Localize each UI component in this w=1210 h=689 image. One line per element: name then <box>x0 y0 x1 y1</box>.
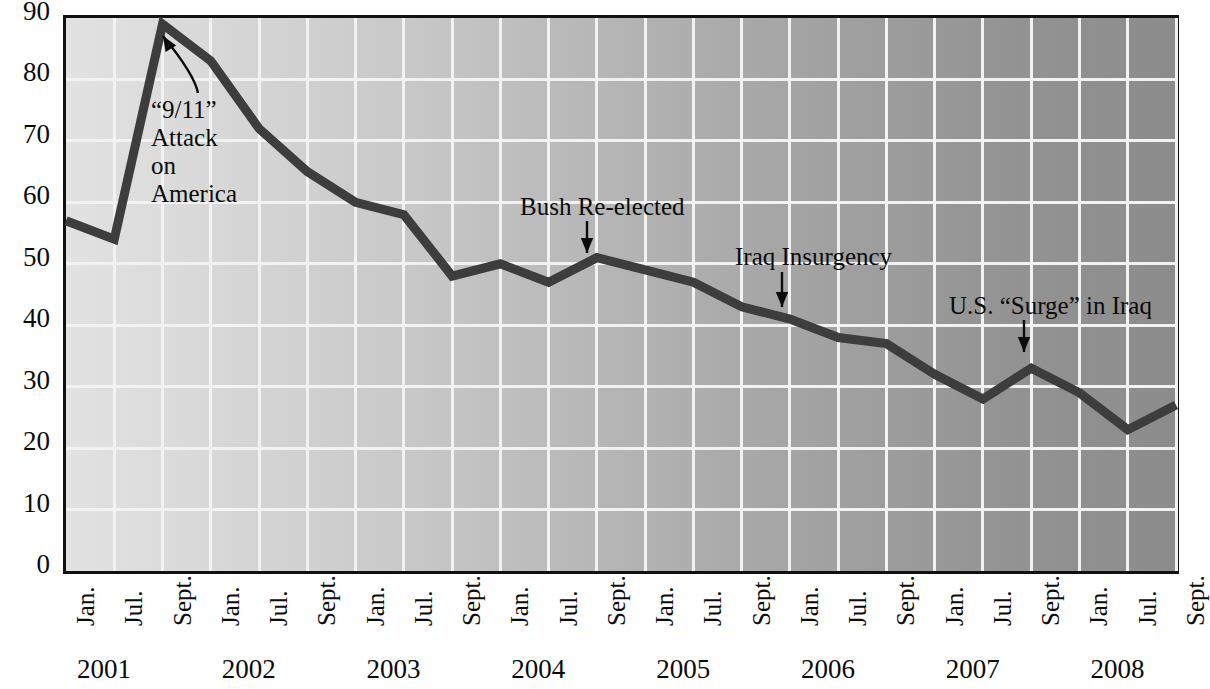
x-axis-tick-label: Sept. <box>313 575 341 626</box>
y-axis-tick-label: 70 <box>0 121 50 148</box>
x-axis-year-label: 2005 <box>650 654 716 685</box>
x-axis-tick-label: Jul. <box>699 591 727 626</box>
x-axis-year-label: 2004 <box>505 654 571 685</box>
x-axis-tick-label: Jan. <box>796 586 824 626</box>
data-series-line <box>66 24 1176 430</box>
x-axis-tick-label: Jul. <box>265 591 293 626</box>
x-axis-tick-label: Jul. <box>844 591 872 626</box>
x-axis-tick-label: Jan. <box>941 586 969 626</box>
y-axis-tick-label: 90 <box>0 0 50 25</box>
x-axis-tick-label: Jul. <box>410 591 438 626</box>
x-axis-year-label: 2001 <box>71 654 137 685</box>
x-axis-year-label: 2007 <box>940 654 1006 685</box>
y-axis: 0102030405060708090 <box>0 0 55 689</box>
x-axis-tick-label: Jan. <box>506 586 534 626</box>
annotation-arrow <box>573 207 601 267</box>
annotation-label-bush-re-elected: Bush Re-elected <box>520 193 685 221</box>
x-axis-tick-label: Jan. <box>651 586 679 626</box>
x-axis-tick-label: Jul. <box>120 591 148 626</box>
y-axis-tick-label: 30 <box>0 367 50 394</box>
y-axis-tick-label: 50 <box>0 244 50 271</box>
x-axis-year-label: 2006 <box>795 654 861 685</box>
x-axis-year-label: 2002 <box>216 654 282 685</box>
x-axis-tick-label: Sept. <box>748 575 776 626</box>
x-axis-tick-label: Sept. <box>603 575 631 626</box>
annotation-label-nine-eleven: “9/11” Attack on America <box>151 96 237 208</box>
x-axis-tick-label: Jul. <box>989 591 1017 626</box>
y-axis-tick-label: 20 <box>0 428 50 455</box>
x-axis-year-label: 2003 <box>361 654 427 685</box>
x-axis-tick-label: Jan. <box>1085 586 1113 626</box>
x-axis-tick-label: Jan. <box>217 586 245 626</box>
annotation-arrow <box>1010 306 1038 366</box>
y-axis-tick-label: 60 <box>0 182 50 209</box>
x-axis-tick-label: Jan. <box>362 586 390 626</box>
annotation-label-iraq-insurgency: Iraq Insurgency <box>735 243 892 271</box>
x-axis-tick-label: Jul. <box>555 591 583 626</box>
y-axis-tick-label: 40 <box>0 305 50 332</box>
x-axis-tick-label: Sept. <box>892 575 920 626</box>
y-axis-tick-label: 0 <box>0 551 50 578</box>
y-axis-tick-label: 10 <box>0 490 50 517</box>
annotation-label-us-surge-in-iraq: U.S. “Surge” in Iraq <box>949 292 1152 320</box>
x-axis-tick-label: Sept. <box>1037 575 1065 626</box>
x-axis-year-label: 2008 <box>1085 654 1151 685</box>
annotation-arrow <box>768 258 796 321</box>
x-axis-tick-label: Sept. <box>169 575 197 626</box>
x-axis-tick-label: Jul. <box>1134 591 1162 626</box>
annotation-arrow <box>149 22 212 107</box>
x-axis-tick-label: Sept. <box>1182 575 1210 626</box>
x-axis-tick-label: Jan. <box>72 586 100 626</box>
y-axis-tick-label: 80 <box>0 59 50 86</box>
x-axis-tick-label: Sept. <box>458 575 486 626</box>
